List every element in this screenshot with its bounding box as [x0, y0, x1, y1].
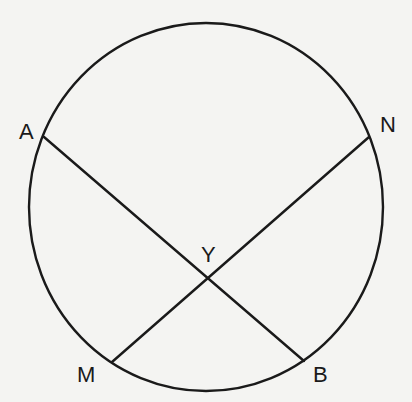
point-label-b: B — [313, 364, 328, 386]
chord-mn — [112, 137, 369, 362]
point-label-n: N — [380, 114, 396, 136]
point-label-y: Y — [201, 244, 216, 266]
chord-ab — [44, 137, 304, 361]
point-label-a: A — [19, 121, 34, 143]
point-label-m: M — [77, 364, 95, 386]
circle-diagram — [0, 0, 412, 402]
circle-outline — [29, 23, 383, 391]
diagram-canvas: A N Y M B — [0, 0, 412, 402]
